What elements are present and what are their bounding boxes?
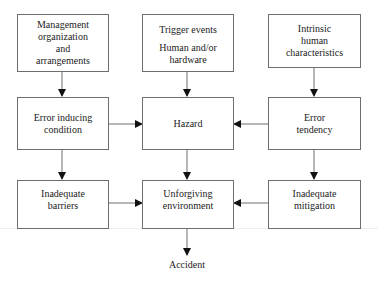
node-text: tendency [296,124,332,136]
node-text: condition [44,124,82,136]
node-error-inducing-condition: Error inducing condition [17,97,109,150]
node-hazard: Hazard [142,97,234,150]
node-text: mitigation [294,200,335,212]
node-text: Error [304,112,325,124]
node-text: Error inducing [34,112,93,124]
node-text: Management [37,19,89,31]
node-text: environment [163,200,214,212]
node-text: Trigger events [159,24,217,36]
node-text: arrangements [36,55,90,67]
node-unforgiving-environment: Unforgiving environment [142,180,234,229]
node-text: Unforgiving [163,188,212,200]
node-text: hardware [169,54,206,66]
node-text: barriers [48,200,79,212]
node-inadequate-mitigation: Inadequate mitigation [268,180,361,229]
node-text: Inadequate [41,188,85,200]
node-text: Inadequate [293,188,337,200]
node-management-organization: Management organization and arrangements [17,14,109,72]
node-text: Intrinsic [298,23,331,35]
node-text: organization [38,31,88,43]
node-text: Human and/or [159,42,217,54]
node-text: characteristics [286,47,343,59]
node-text: Hazard [174,118,203,130]
node-accident: Accident [157,259,217,270]
node-error-tendency: Error tendency [268,97,361,150]
node-inadequate-barriers: Inadequate barriers [17,180,109,229]
node-trigger-events: Trigger events Human and/or hardware [142,14,234,72]
node-text: and [56,43,70,55]
node-intrinsic-human-characteristics: Intrinsic human characteristics [268,14,361,68]
node-text: human [301,35,328,47]
